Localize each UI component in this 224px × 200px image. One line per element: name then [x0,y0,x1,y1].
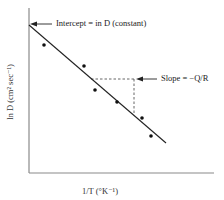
data-point [140,116,144,120]
y-axis-label: ln D (cm² sec⁻¹) [5,64,15,120]
data-point [93,88,97,92]
x-axis-label: 1/T (°K⁻¹) [0,186,224,196]
data-point [82,64,86,68]
x-axis-label-text: 1/T (°K⁻¹) [82,186,118,196]
best-fit-line [29,25,166,143]
data-point [149,134,153,138]
intercept-annotation: Intercept = in D (constant) [56,19,146,28]
slope-arrow-icon [136,77,157,82]
intercept-arrow-icon [30,22,52,27]
arrhenius-plot [0,0,224,200]
data-point [42,43,46,47]
data-points [42,43,153,138]
data-point [115,100,119,104]
slope-annotation: Slope = −Q/R [161,74,208,83]
